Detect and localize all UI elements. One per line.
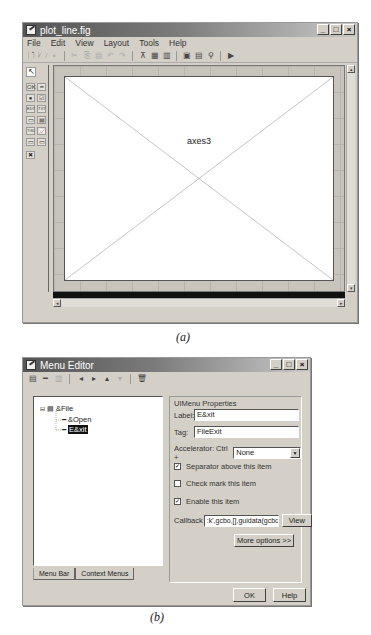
- toolbar-separator: [132, 51, 133, 61]
- vertical-scrollbar[interactable]: ▴ ▾: [346, 65, 355, 292]
- paste-icon[interactable]: ▤: [94, 51, 103, 60]
- tab-menu-bar[interactable]: Menu Bar: [33, 568, 75, 580]
- callback-field[interactable]: :k',gcbo,[],guidata(gcbo)): [204, 515, 279, 527]
- toolbar-separator: [64, 51, 65, 61]
- menu-editor-icon[interactable]: ▦: [150, 51, 159, 60]
- menu-editor-title-bar: Menu Editor _ □ ×: [23, 358, 310, 372]
- uimenu-properties-group: UIMenu Properties Label: E&xit Tag: File…: [169, 396, 302, 583]
- m-file-editor-icon[interactable]: ▣: [182, 51, 191, 60]
- align-icon[interactable]: ⊼: [138, 51, 147, 60]
- new-context-menu-icon[interactable]: ▥: [54, 374, 63, 383]
- edit-text-tool-icon[interactable]: EDT: [26, 105, 35, 113]
- toolbar-separator: [176, 51, 177, 61]
- move-up-icon[interactable]: ▴: [102, 374, 111, 383]
- menu-editor-app-icon: [26, 360, 36, 370]
- run-icon[interactable]: ▶: [226, 51, 235, 60]
- select-tool-icon[interactable]: ↖: [26, 67, 36, 77]
- copy-icon[interactable]: ⎘: [82, 51, 91, 60]
- help-button[interactable]: Help: [273, 588, 306, 602]
- axes-placeholder-cross: [65, 77, 333, 280]
- save-icon[interactable]: ▪: [50, 51, 59, 60]
- view-button[interactable]: View: [282, 514, 312, 527]
- tab-context-menus[interactable]: Context Menus: [75, 568, 134, 580]
- popup-menu-tool-icon[interactable]: ▭: [26, 116, 35, 124]
- static-text-tool-icon[interactable]: TXT: [37, 105, 46, 113]
- move-right-icon[interactable]: ▸: [89, 374, 98, 383]
- slider-tool-icon[interactable]: ━: [37, 83, 46, 91]
- activex-tool-icon[interactable]: ✖: [26, 151, 35, 159]
- accelerator-caption: Accelerator: Ctrl +: [174, 444, 231, 462]
- object-browser-icon[interactable]: ⚲: [206, 51, 215, 60]
- toolbar-separator: [130, 374, 131, 384]
- scroll-left-arrow-icon[interactable]: ◂: [53, 299, 61, 307]
- toggle-button-tool-icon[interactable]: TGL: [26, 127, 35, 135]
- open-icon[interactable]: 🗁: [38, 51, 47, 60]
- more-options-button[interactable]: More options >>: [234, 534, 294, 547]
- checkmark-checkbox[interactable]: [174, 480, 181, 487]
- accelerator-value: None: [236, 448, 254, 457]
- menu-view[interactable]: View: [75, 38, 93, 48]
- maximize-button[interactable]: □: [330, 24, 342, 35]
- toolbar: 🗋 🗁 ▪ ✂ ⎘ ▤ ↶ ↷ ⊼ ▦ ▥ ▣ ▤ ⚲ ▶: [23, 49, 357, 63]
- component-palette: ↖ OK ━ ● ☑ EDT TXT ▭ ▤ TGL 📈 ▭ ▭ ✖: [25, 65, 49, 292]
- menu-edit[interactable]: Edit: [51, 38, 66, 48]
- toolbar-separator: [220, 51, 221, 61]
- cut-icon[interactable]: ✂: [70, 51, 79, 60]
- check-box-tool-icon[interactable]: ☑: [37, 94, 46, 102]
- property-inspector-icon[interactable]: ▤: [194, 51, 203, 60]
- layout-area[interactable]: axes3: [53, 65, 345, 292]
- accelerator-dropdown[interactable]: None ▼: [233, 447, 301, 459]
- axes-tool-icon[interactable]: 📈: [37, 127, 46, 135]
- radio-button-tool-icon[interactable]: ●: [26, 94, 35, 102]
- move-left-icon[interactable]: ◂: [76, 374, 85, 383]
- new-icon[interactable]: 🗋: [26, 51, 35, 60]
- guide-app-icon: [26, 25, 36, 35]
- enable-checkbox[interactable]: ✓: [174, 498, 181, 505]
- tree-connector-lines: [34, 397, 94, 437]
- axes-component[interactable]: axes3: [64, 76, 334, 281]
- new-menu-icon[interactable]: ▤: [28, 374, 37, 383]
- delete-icon[interactable]: 🗑: [137, 374, 146, 383]
- horizontal-scrollbar[interactable]: ◂ ▸: [53, 298, 345, 307]
- label-field[interactable]: E&xit: [194, 409, 299, 421]
- group-title: UIMenu Properties: [174, 399, 237, 408]
- callback-caption: Callback: [174, 516, 203, 525]
- move-down-icon[interactable]: ▾: [115, 374, 124, 383]
- scroll-up-arrow-icon[interactable]: ▴: [347, 65, 355, 73]
- window-title: plot_line.fig: [40, 25, 91, 36]
- minimize-button[interactable]: _: [317, 24, 329, 35]
- menu-tree[interactable]: ⊟ ▤ &File ━ &Open ━ E&xit: [33, 396, 163, 566]
- listbox-tool-icon[interactable]: ▤: [37, 116, 46, 124]
- separator-label: Separator above this item: [186, 462, 271, 471]
- tag-field[interactable]: FileExit: [194, 426, 299, 438]
- button-group-tool-icon[interactable]: ▭: [37, 138, 46, 146]
- new-menu-item-icon[interactable]: ━: [41, 374, 50, 383]
- caption-a: (a): [176, 330, 190, 345]
- checkmark-label: Check mark this item: [186, 479, 256, 488]
- push-button-tool-icon[interactable]: OK: [26, 83, 35, 91]
- chevron-down-icon[interactable]: ▼: [290, 448, 300, 458]
- label-caption: Label:: [174, 411, 194, 420]
- menu-file[interactable]: File: [27, 38, 41, 48]
- panel-tool-icon[interactable]: ▭: [26, 138, 35, 146]
- scroll-down-arrow-icon[interactable]: ▾: [347, 284, 355, 292]
- redo-icon[interactable]: ↷: [118, 51, 127, 60]
- guide-title-bar: plot_line.fig _ □ ×: [23, 23, 357, 37]
- maximize-button[interactable]: □: [283, 359, 295, 370]
- minimize-button[interactable]: _: [270, 359, 282, 370]
- undo-icon[interactable]: ↶: [106, 51, 115, 60]
- tab-order-icon[interactable]: ▥: [162, 51, 171, 60]
- tree-tabs: Menu Bar Context Menus: [33, 568, 134, 580]
- menu-bar: File Edit View Layout Tools Help: [23, 37, 357, 49]
- ok-button[interactable]: OK: [233, 588, 266, 602]
- menu-layout[interactable]: Layout: [104, 38, 130, 48]
- close-button[interactable]: ×: [343, 24, 355, 35]
- separator-checkbox[interactable]: ✓: [174, 463, 181, 470]
- caption-b: (b): [150, 610, 164, 625]
- menu-tools[interactable]: Tools: [139, 38, 159, 48]
- window-title: Menu Editor: [40, 360, 94, 371]
- menu-help[interactable]: Help: [169, 38, 186, 48]
- tag-caption: Tag:: [174, 428, 194, 437]
- close-button[interactable]: ×: [296, 359, 308, 370]
- scroll-right-arrow-icon[interactable]: ▸: [337, 299, 345, 307]
